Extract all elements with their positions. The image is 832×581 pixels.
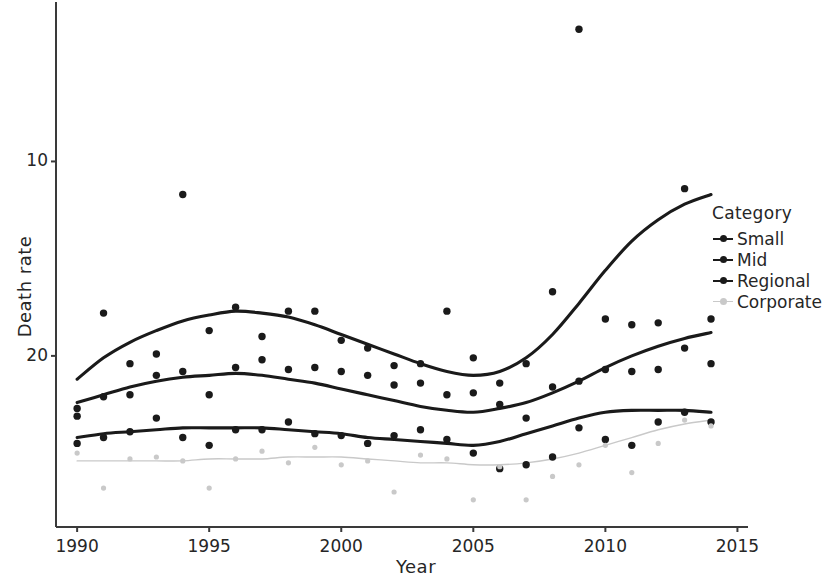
data-point-regional xyxy=(232,426,239,433)
axis-lines xyxy=(56,2,748,527)
data-point-small xyxy=(258,333,265,340)
data-point-corporate xyxy=(127,456,132,461)
data-point-mid xyxy=(443,391,450,398)
data-point-mid xyxy=(470,389,477,396)
y-tick-label: 20 xyxy=(0,345,48,365)
data-point-regional xyxy=(205,442,212,449)
data-point-regional xyxy=(549,453,556,460)
data-point-small xyxy=(364,344,371,351)
data-point-small xyxy=(311,307,318,314)
data-point-regional xyxy=(681,409,688,416)
data-point-corporate xyxy=(497,464,502,469)
data-point-corporate xyxy=(524,497,529,502)
data-point-regional xyxy=(73,440,80,447)
x-tick-label: 2015 xyxy=(702,536,772,556)
data-point-corporate xyxy=(471,497,476,502)
trend-line-mid xyxy=(77,333,711,413)
data-point-corporate xyxy=(629,470,634,475)
data-point-small xyxy=(470,354,477,361)
data-point-corporate xyxy=(708,423,713,428)
legend-items: SmallMidRegionalCorporate xyxy=(712,228,830,312)
data-point-small xyxy=(522,360,529,367)
data-point-mid xyxy=(575,377,582,384)
legend-item-small[interactable]: Small xyxy=(712,228,830,249)
data-point-regional xyxy=(655,418,662,425)
data-point-corporate xyxy=(391,489,396,494)
data-point-small xyxy=(417,360,424,367)
data-point-regional xyxy=(602,436,609,443)
data-point-small xyxy=(390,362,397,369)
data-point-mid xyxy=(602,366,609,373)
data-point-mid xyxy=(496,379,503,386)
legend-item-mid[interactable]: Mid xyxy=(712,249,830,270)
data-point-small xyxy=(205,327,212,334)
legend-item-regional[interactable]: Regional xyxy=(712,270,830,291)
data-point-corporate xyxy=(576,462,581,467)
data-point-small xyxy=(153,350,160,357)
legend-item-label: Mid xyxy=(737,250,767,270)
data-point-regional xyxy=(338,432,345,439)
data-point-regional xyxy=(285,418,292,425)
data-point-corporate xyxy=(180,458,185,463)
data-point-regional xyxy=(100,434,107,441)
data-point-mid xyxy=(258,356,265,363)
data-point-small xyxy=(232,304,239,311)
data-point-small xyxy=(443,307,450,314)
legend-item-label: Small xyxy=(737,229,784,249)
data-point-mid xyxy=(681,344,688,351)
data-point-mid xyxy=(100,393,107,400)
x-tick-label: 1995 xyxy=(174,536,244,556)
data-point-mid xyxy=(549,383,556,390)
data-point-corporate xyxy=(339,462,344,467)
data-point-small xyxy=(126,360,133,367)
plot-area xyxy=(0,0,832,581)
x-tick-label: 2000 xyxy=(306,536,376,556)
data-point-mid xyxy=(285,366,292,373)
legend-title: Category xyxy=(712,203,830,223)
data-point-mid xyxy=(364,372,371,379)
data-point-small xyxy=(100,309,107,316)
data-point-regional xyxy=(522,461,529,468)
data-point-small xyxy=(338,337,345,344)
data-point-corporate xyxy=(207,486,212,491)
data-point-small xyxy=(575,26,582,33)
data-point-regional xyxy=(628,442,635,449)
data-point-mid xyxy=(126,391,133,398)
data-point-mid xyxy=(153,372,160,379)
legend-key-icon xyxy=(712,293,734,311)
data-point-small xyxy=(496,401,503,408)
data-point-corporate xyxy=(312,445,317,450)
y-tick-label: 10 xyxy=(0,150,48,170)
data-point-regional xyxy=(443,436,450,443)
data-point-mid xyxy=(311,364,318,371)
trend-line-regional xyxy=(77,410,711,445)
data-point-small xyxy=(628,321,635,328)
y-axis-title: Death rate xyxy=(14,217,35,357)
data-point-small xyxy=(179,191,186,198)
trend-line-small xyxy=(77,195,711,380)
data-point-mid xyxy=(390,381,397,388)
data-point-mid xyxy=(179,368,186,375)
data-point-regional xyxy=(179,434,186,441)
legend-item-corporate[interactable]: Corporate xyxy=(712,291,830,312)
data-point-small xyxy=(549,288,556,295)
x-tick-label: 2005 xyxy=(438,536,508,556)
legend-item-label: Regional xyxy=(737,271,810,291)
data-point-mid xyxy=(628,368,635,375)
trend-lines xyxy=(77,195,711,466)
x-axis-title: Year xyxy=(0,556,832,577)
data-point-mid xyxy=(73,412,80,419)
data-point-small xyxy=(681,185,688,192)
data-point-small xyxy=(73,405,80,412)
data-point-regional xyxy=(311,430,318,437)
trend-line-corporate xyxy=(77,420,711,465)
data-point-corporate xyxy=(603,443,608,448)
legend-key-icon xyxy=(712,230,734,248)
data-point-regional xyxy=(153,414,160,421)
legend: Category SmallMidRegionalCorporate xyxy=(712,203,830,312)
legend-key-icon xyxy=(712,251,734,269)
data-point-corporate xyxy=(75,451,80,456)
tick-marks xyxy=(51,161,737,532)
scatter-chart: Year Death rate 199019952000200520102015… xyxy=(0,0,832,581)
data-point-regional xyxy=(364,440,371,447)
